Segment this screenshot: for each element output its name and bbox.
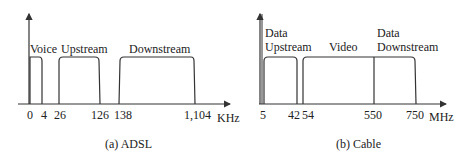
tick-label: 5 [260, 108, 266, 122]
tick-label: 0 [27, 108, 33, 122]
caption: (b) Cable [336, 137, 381, 151]
unit-label: KHz [217, 111, 240, 125]
upstream-label: Upstream [265, 40, 312, 54]
data-upstream-band [264, 57, 297, 104]
tick-label: 54 [302, 108, 314, 122]
voice-label: Voice [30, 42, 57, 56]
video-downstream-band [303, 57, 416, 104]
tick-label: 550 [364, 108, 382, 122]
downstream-band [119, 57, 195, 104]
tick-label: 26 [54, 108, 66, 122]
unit-label: MHz [429, 110, 454, 124]
downstream-label: Downstream [377, 40, 439, 54]
adsl-panel: Voice Upstream Downstream 0 4 26 126 138… [18, 14, 240, 151]
tick-label: 4 [41, 108, 47, 122]
upstream-band [59, 57, 100, 104]
voice-band [30, 57, 42, 104]
caption: (a) ADSL [105, 137, 152, 151]
video-label: Video [329, 40, 358, 54]
upstream-label: Upstream [61, 42, 108, 56]
frequency-band-diagram: Voice Upstream Downstream 0 4 26 126 138… [0, 0, 472, 158]
tick-label: 126 [91, 108, 109, 122]
tick-label: 42 [288, 108, 300, 122]
tick-label: 138 [114, 108, 132, 122]
data-label: Data [265, 26, 288, 40]
downstream-label: Downstream [129, 42, 191, 56]
data-label: Data [377, 26, 400, 40]
tick-label: 1,104 [184, 108, 211, 122]
cable-panel: Data Upstream Video Data Downstream 5 42… [259, 14, 454, 151]
tick-label: 750 [406, 108, 424, 122]
